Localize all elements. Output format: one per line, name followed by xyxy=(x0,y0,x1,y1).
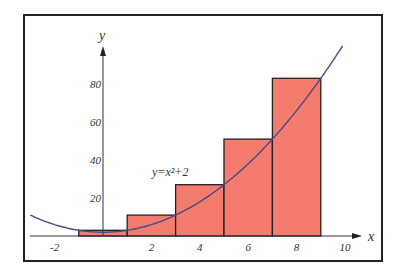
x-tick-label: 4 xyxy=(197,241,203,253)
function-label: y=x²+2 xyxy=(151,165,188,179)
x-axis-arrow-icon xyxy=(352,233,362,239)
bar-2 xyxy=(176,185,224,236)
bar-4 xyxy=(272,78,320,236)
y-axis-label: y xyxy=(97,28,106,43)
y-tick-label: 20 xyxy=(90,192,102,204)
bar-3 xyxy=(224,139,272,236)
y-tick-label: 80 xyxy=(90,78,102,90)
x-tick-label: 6 xyxy=(245,241,251,253)
x-tick-label: -2 xyxy=(50,241,60,253)
x-axis-label: x xyxy=(367,229,375,244)
riemann-sum-chart: xy-224681020406080y=x²+2 xyxy=(0,0,404,278)
y-axis-arrow-icon xyxy=(100,46,106,56)
y-tick-label: 40 xyxy=(90,154,102,166)
x-tick-label: 2 xyxy=(149,241,155,253)
x-tick-label: 10 xyxy=(340,241,352,253)
y-tick-label: 60 xyxy=(90,116,102,128)
x-tick-label: 8 xyxy=(294,241,300,253)
